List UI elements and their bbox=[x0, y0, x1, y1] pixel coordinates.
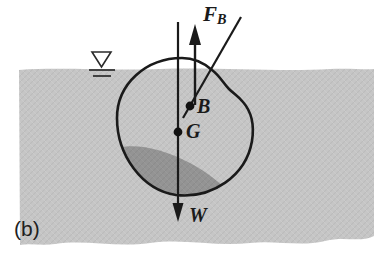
point-b-marker bbox=[186, 102, 195, 111]
label-center-of-gravity: G bbox=[186, 121, 200, 141]
label-center-of-buoyancy: B bbox=[197, 96, 210, 116]
label-weight: W bbox=[189, 205, 207, 225]
panel-label: (b) bbox=[14, 217, 40, 241]
fb-symbol: F bbox=[203, 2, 217, 26]
label-buoyant-force: FB bbox=[203, 4, 227, 26]
buoyancy-diagram: FB B G W (b) bbox=[0, 0, 391, 269]
point-g-marker bbox=[174, 128, 183, 137]
fb-subscript: B bbox=[217, 11, 227, 27]
